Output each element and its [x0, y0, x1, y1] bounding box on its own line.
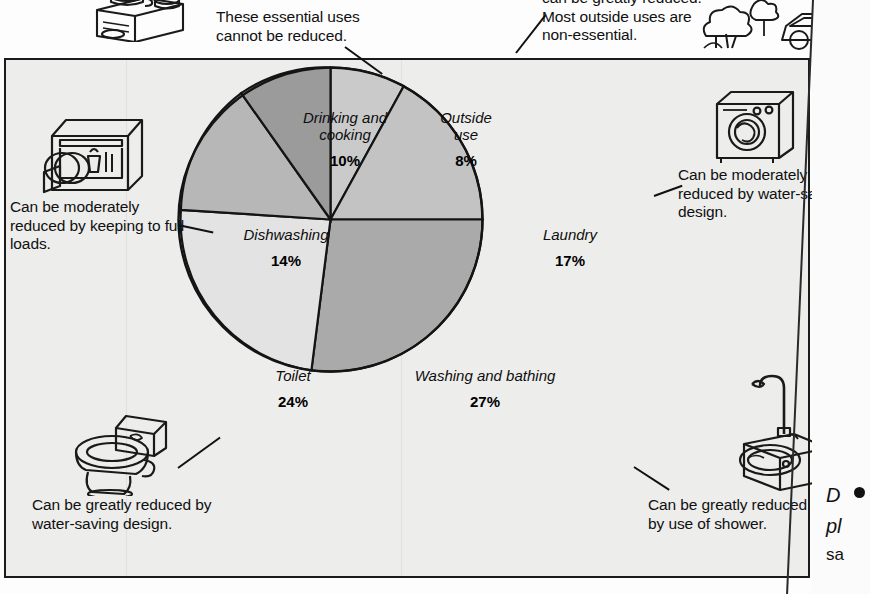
caption-line-2: pl: [826, 511, 870, 542]
annotation-drinking-and-cooking: These essential uses cannot be reduced.: [216, 8, 366, 45]
stove-cooking-icon: [83, 0, 201, 42]
pie-slice-toilet: [181, 210, 331, 370]
cropped-side-caption: D pl sa: [826, 480, 870, 568]
annotation-outside-use: can be greatly reduced. Most outside use…: [542, 0, 712, 45]
annotation-toilet: Can be greatly reduced by water-saving d…: [32, 496, 212, 533]
caption-line-3: sa: [826, 542, 870, 568]
dishwasher-icon: [36, 110, 158, 200]
annotation-washing-and-bathing: Can be greatly reduced by use of shower.: [648, 496, 808, 533]
annotation-dishwashing: Can be moderately reduced by keeping to …: [10, 198, 186, 254]
pie-chart: Drinking and cooking 10% Outside use 8% …: [173, 62, 488, 377]
caption-line-1: D: [826, 480, 870, 511]
figure-page: Drinking and cooking 10% Outside use 8% …: [0, 0, 870, 594]
pie-slice-washing-and-bathing: [311, 220, 482, 372]
washing-machine-icon: [707, 88, 807, 164]
toilet-icon: [58, 404, 180, 496]
